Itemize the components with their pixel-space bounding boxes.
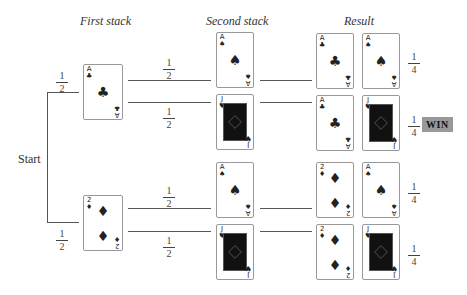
start-branch-bottom	[47, 222, 79, 223]
connector-r3	[260, 208, 312, 209]
diamond-icon: ♦	[97, 229, 110, 243]
spade-icon: ♠	[229, 183, 242, 197]
prob-result-1: 14	[408, 52, 420, 75]
club-icon: ♣	[86, 72, 92, 80]
diamond-icon: ♦	[329, 196, 342, 210]
diamond-icon: ♦	[329, 233, 342, 247]
club-icon: ♣	[329, 116, 342, 130]
card-result-1a: A♣ ♣ A♣	[316, 33, 354, 89]
prob-result-2: 14	[408, 115, 420, 138]
card-result-3b: A♠ ♠ A♠	[362, 162, 400, 218]
card-result-4b: J♥ J♥	[362, 224, 400, 280]
prob-b1-top: 12	[163, 58, 175, 81]
prob-b2-top: 12	[163, 186, 175, 209]
jack-face-icon	[223, 103, 247, 141]
prob-first-bottom: 12	[56, 229, 68, 252]
prob-first-top: 12	[56, 71, 68, 94]
diamond-icon: ♦	[97, 204, 110, 218]
connector-r1	[260, 80, 312, 81]
spade-icon: ♠	[229, 53, 242, 67]
header-second-stack: Second stack	[206, 14, 268, 29]
club-icon: ♣	[97, 85, 110, 99]
card-second-jack-1: J♥ J♥	[216, 94, 254, 150]
connector-r2	[260, 102, 312, 103]
card-second-ace-spades-1: A♠ ♠ A♠	[216, 32, 254, 88]
card-result-2a: A♣ ♣ A♣	[316, 95, 354, 151]
header-result: Result	[344, 14, 374, 29]
prob-result-3: 14	[408, 182, 420, 205]
card-result-3a: 2♦ ♦ ♦ 2♦	[316, 162, 354, 218]
connector-r4	[260, 231, 312, 232]
prob-b2-bottom: 12	[163, 236, 175, 259]
connector-1b	[128, 102, 211, 103]
prob-result-4: 14	[408, 244, 420, 267]
card-result-1b: A♠ ♠ A♠	[362, 33, 400, 89]
start-bracket-vertical	[47, 92, 48, 223]
start-label: Start	[18, 152, 41, 167]
jack-face-icon	[369, 104, 393, 142]
diamond-icon: ♦	[329, 171, 342, 185]
card-second-ace-spades-2: A♠ ♠ A♠	[216, 162, 254, 218]
card-result-2b: J♥ J♥	[362, 95, 400, 151]
card-second-jack-2: J♥ J♥	[216, 224, 254, 280]
header-first-stack: First stack	[80, 14, 131, 29]
connector-2b	[128, 231, 211, 232]
prob-b1-bottom: 12	[163, 107, 175, 130]
spade-icon: ♠	[375, 54, 388, 68]
jack-face-icon	[369, 233, 393, 271]
card-first-two-diamonds: 2♦ ♦ ♦ 2♦	[83, 195, 123, 251]
jack-face-icon	[223, 233, 247, 271]
card-result-4a: 2♦ ♦ ♦ 2♦	[316, 224, 354, 280]
card-first-ace-clubs: A♣ ♣ A♣	[83, 64, 123, 120]
diamond-icon: ♦	[329, 258, 342, 272]
club-icon: ♣	[329, 54, 342, 68]
spade-icon: ♠	[375, 183, 388, 197]
win-badge: WIN	[422, 117, 453, 132]
